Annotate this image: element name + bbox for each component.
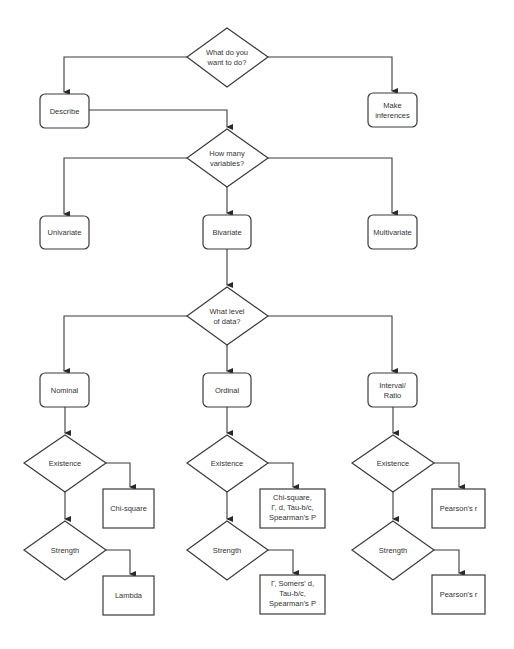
decision-label: Existence — [377, 459, 410, 468]
decision-ordinal-existence: Existence — [187, 435, 268, 492]
decision-label: Existence — [49, 459, 82, 468]
decision-interval-strength: Strength — [352, 521, 434, 580]
node-label: Nominal — [51, 386, 79, 395]
node-label: Ordinal — [215, 386, 240, 395]
edge-nom-existence-result — [106, 463, 130, 487]
edge-purpose-inferences — [268, 57, 392, 91]
result-chi-square: Chi-square — [103, 489, 154, 528]
edge-int-strength-result — [434, 550, 459, 573]
result-label: Pearson's r — [440, 504, 478, 513]
node-label-line2: inferences — [375, 111, 410, 120]
result-pearsons-r-strength: Pearson's r — [432, 575, 485, 614]
result-label: Chi-square — [110, 504, 147, 513]
edge-purpose-describe — [64, 57, 187, 92]
node-label: Bivariate — [212, 228, 241, 237]
decision-label: Strength — [213, 546, 241, 555]
node-label: Describe — [50, 107, 80, 116]
decision-label: Strength — [51, 546, 79, 555]
edge-nom-strength-result — [106, 550, 130, 574]
result-label: Pearson's r — [440, 590, 478, 599]
node-label-line1: Interval/ — [379, 381, 407, 390]
decision-how-many-variables: How many variables? — [187, 129, 268, 187]
edge-describe-variables — [89, 110, 227, 127]
edge-level-nominal — [64, 316, 187, 371]
decision-label: Strength — [379, 546, 407, 555]
decision-label-line2: of data? — [213, 317, 240, 326]
node-bivariate: Bivariate — [203, 215, 251, 249]
node-label-line1: Make — [383, 101, 401, 110]
edge-variables-multivariate — [268, 158, 392, 213]
edge-ord-existence-result — [268, 463, 293, 487]
edge-level-interval — [268, 316, 392, 371]
result-ordinal-strength-tests: Γ, Somers' d, Tau-b/c, Spearman's P — [260, 575, 325, 614]
decision-what-level-of-data: What level of data? — [187, 287, 268, 345]
result-label-line1: Γ, Somers' d, — [271, 579, 314, 588]
decision-ordinal-strength: Strength — [187, 521, 268, 580]
result-ordinal-existence-tests: Chi-square, Γ, d, Tau-b/c, Spearman's P — [260, 489, 325, 528]
result-label-line2: Tau-b/c, — [279, 589, 306, 598]
node-make-inferences: Make inferences — [368, 93, 417, 127]
node-describe: Describe — [40, 94, 89, 128]
decision-label: Existence — [211, 459, 244, 468]
result-label-line3: Spearman's P — [269, 513, 316, 522]
decision-label-line1: How many — [209, 149, 245, 158]
decision-label-line2: want to do? — [207, 58, 247, 67]
node-label: Univariate — [48, 228, 82, 237]
decision-nominal-existence: Existence — [24, 435, 106, 492]
result-lambda: Lambda — [103, 576, 154, 615]
result-label-line1: Chi-square, — [273, 493, 312, 502]
decision-interval-existence: Existence — [352, 435, 434, 492]
decision-nominal-strength: Strength — [24, 521, 106, 580]
result-pearsons-r-existence: Pearson's r — [432, 489, 485, 528]
result-label: Lambda — [115, 591, 143, 600]
edge-int-existence-result — [434, 463, 459, 487]
flowchart-canvas: What do you want to do? Describe Make in… — [0, 0, 514, 649]
node-ordinal: Ordinal — [203, 373, 251, 407]
node-label-line2: Ratio — [384, 391, 402, 400]
node-univariate: Univariate — [40, 216, 89, 249]
node-multivariate: Multivariate — [368, 215, 417, 249]
decision-label-line1: What level — [209, 307, 244, 316]
result-label-line3: Spearman's P — [269, 599, 316, 608]
edge-variables-univariate — [64, 158, 187, 214]
decision-label-line1: What do you — [206, 48, 248, 57]
edge-ord-strength-result — [268, 550, 293, 573]
result-label-line2: Γ, d, Tau-b/c, — [271, 503, 313, 512]
node-nominal: Nominal — [40, 373, 89, 407]
decision-label-line2: variables? — [210, 159, 244, 168]
decision-what-do-you-want: What do you want to do? — [187, 28, 268, 87]
node-label: Multivariate — [373, 228, 411, 237]
node-interval-ratio: Interval/ Ratio — [368, 373, 417, 407]
